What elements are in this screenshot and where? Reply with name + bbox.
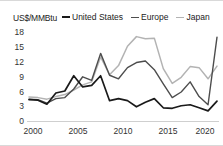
gas-price-line-chart: US$/MMBtu United States Europe Japan 18 … (0, 0, 223, 146)
series-line-japan (29, 37, 217, 100)
series-line-europe (29, 37, 217, 105)
series-line-united-states (29, 76, 217, 111)
plot-area (0, 1, 223, 146)
